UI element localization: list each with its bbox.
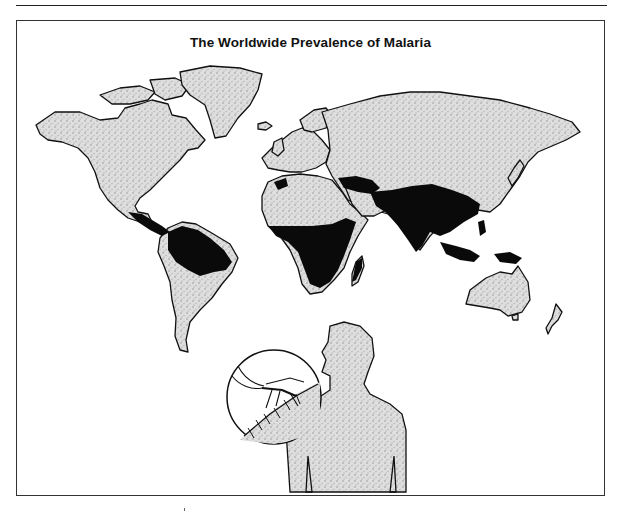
australia bbox=[466, 266, 530, 316]
iceland bbox=[258, 122, 272, 130]
mosquito-inset bbox=[227, 350, 321, 444]
world-malaria-map bbox=[0, 0, 618, 516]
malaria-africa bbox=[268, 218, 356, 288]
malaria-philippines bbox=[478, 220, 486, 236]
new-zealand bbox=[546, 304, 562, 334]
land-masses bbox=[36, 66, 580, 352]
malaria-indonesia bbox=[440, 242, 480, 262]
malaria-new-guinea bbox=[494, 252, 522, 264]
scan-artifact bbox=[184, 508, 185, 511]
north-america bbox=[36, 100, 205, 222]
